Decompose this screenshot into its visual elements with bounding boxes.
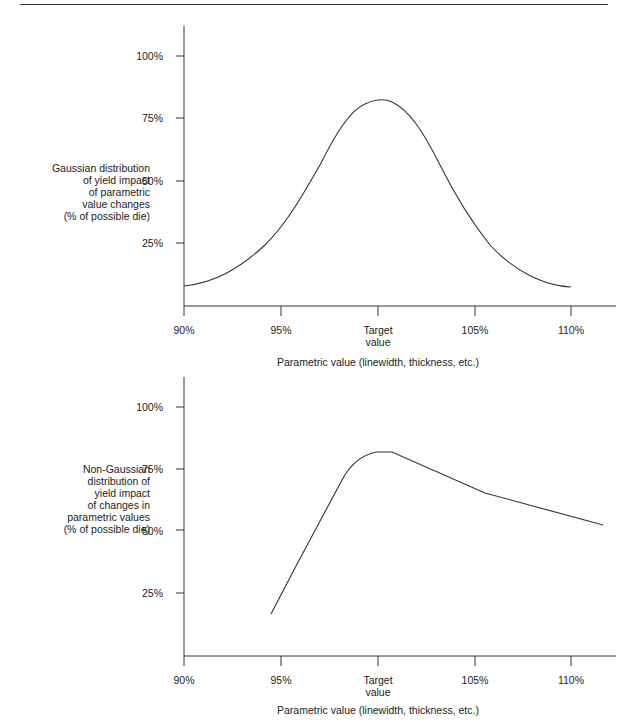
top-xtick-90: 90% [154, 324, 214, 336]
bottom-xtick-target: Target value [348, 674, 408, 698]
bottom-xtick-90: 90% [154, 674, 214, 686]
bottom-x-axis-title: Parametric value (linewidth, thickness, … [228, 704, 528, 716]
bottom-chart-axes [176, 377, 616, 666]
top-gaussian-curve [184, 100, 571, 287]
ylabel-line: of parametric [0, 186, 150, 198]
ylabel-line: (% of possible die) [0, 210, 150, 222]
top-x-axis-title: Parametric value (linewidth, thickness, … [228, 356, 528, 368]
top-y-axis-title: Gaussian distribution of yield impact of… [0, 162, 150, 222]
top-ytick-75: 75% [113, 112, 163, 124]
top-xtick-105: 105% [445, 324, 505, 336]
ylabel-line: of changes in [0, 499, 150, 511]
ylabel-line: value changes [0, 198, 150, 210]
bottom-ytick-75: 75% [113, 463, 163, 475]
ylabel-line: parametric values [0, 511, 150, 523]
target-label: Target [348, 674, 408, 686]
ylabel-line: yield impact [0, 487, 150, 499]
bottom-nongaussian-curve [271, 452, 603, 614]
target-sub-label: value [348, 686, 408, 698]
bottom-xtick-110: 110% [541, 674, 601, 686]
bottom-ytick-25: 25% [113, 587, 163, 599]
bottom-ytick-100: 100% [113, 401, 163, 413]
ylabel-line: Gaussian distribution [0, 162, 150, 174]
top-xtick-110: 110% [541, 324, 601, 336]
target-sub-label: value [348, 336, 408, 348]
top-ytick-50: 50% [113, 175, 163, 187]
bottom-xtick-95: 95% [251, 674, 311, 686]
ylabel-line: distribution of [0, 475, 150, 487]
bottom-xtick-105: 105% [445, 674, 505, 686]
top-chart-axes [176, 26, 616, 316]
top-ytick-25: 25% [113, 237, 163, 249]
top-ytick-100: 100% [113, 50, 163, 62]
target-label: Target [348, 324, 408, 336]
top-xtick-target: Target value [348, 324, 408, 348]
top-xtick-95: 95% [251, 324, 311, 336]
bottom-ytick-50: 50% [113, 525, 163, 537]
